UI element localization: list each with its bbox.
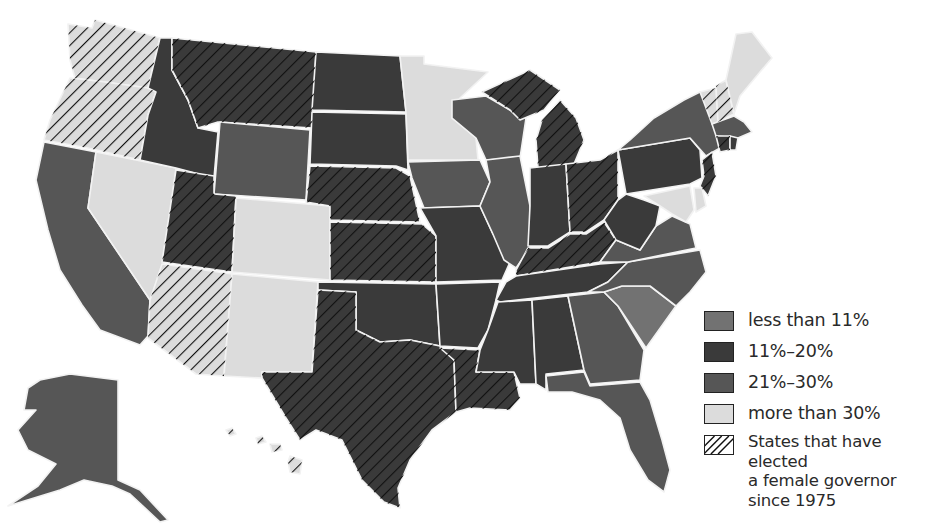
hatch-overlay: [330, 222, 436, 282]
state-indiana: [528, 164, 570, 246]
legend-swatch-more-than-30: [704, 404, 734, 424]
legend-label: 21%–30%: [748, 370, 833, 394]
legend-label-female-governor: States that have elected a female govern…: [748, 432, 938, 510]
state-iowa: [408, 160, 490, 208]
state-colorado: [232, 198, 330, 280]
legend-label: more than 30%: [748, 401, 881, 425]
state-maine: [726, 32, 772, 114]
state-north-dakota: [312, 52, 406, 112]
legend-swatch-11-to-20: [704, 342, 734, 362]
hatch-overlay: [172, 38, 316, 128]
legend-item-21-to-30: 21%–30%: [704, 370, 938, 401]
legend: less than 11% 11%–20% 21%–30% more than …: [704, 308, 938, 510]
legend-swatch-less-than-11: [704, 311, 734, 331]
legend-swatch-21-to-30: [704, 373, 734, 393]
state-florida: [546, 372, 670, 492]
state-alaska: [8, 374, 168, 522]
hatch-pattern-icon: [704, 435, 734, 455]
legend-hatch-line-3: since 1975: [748, 491, 938, 511]
legend-label: 11%–20%: [748, 339, 833, 363]
state-wyoming: [214, 122, 310, 200]
legend-item-more-than-30: more than 30%: [704, 401, 938, 432]
state-south-dakota: [310, 112, 408, 170]
legend-item-less-than-11: less than 11%: [704, 308, 938, 339]
legend-item-11-to-20: 11%–20%: [704, 339, 938, 370]
legend-hatch-line-1: States that have elected: [748, 432, 938, 471]
hatch-overlay: [68, 20, 160, 88]
hatch-overlay: [148, 264, 232, 376]
state-rhode-island: [730, 136, 738, 150]
hatch-overlay: [226, 428, 302, 474]
legend-label: less than 11%: [748, 308, 869, 332]
state-new-mexico: [224, 274, 318, 378]
legend-item-female-governor: States that have elected a female govern…: [704, 432, 938, 510]
legend-hatch-line-2: a female governor: [748, 471, 938, 491]
